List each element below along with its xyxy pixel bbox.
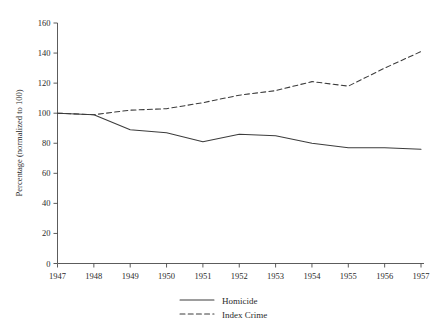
y-axis-ticks	[54, 23, 58, 264]
y-tick-label: 80	[42, 138, 51, 148]
x-tick-label: 1954	[303, 271, 321, 281]
y-tick-label: 140	[38, 48, 51, 58]
series-line-index-crime	[58, 52, 422, 115]
x-tick-label: 1948	[85, 271, 102, 281]
y-axis-tick-labels: 020406080100120140160	[38, 18, 51, 269]
x-tick-label: 1949	[122, 271, 139, 281]
x-tick-label: 1953	[267, 271, 284, 281]
x-tick-label: 1956	[376, 271, 393, 281]
y-axis-title: Percentage (normalized to 100)	[14, 89, 24, 196]
y-tick-label: 100	[38, 108, 51, 118]
y-tick-label: 160	[38, 18, 51, 28]
y-tick-label: 60	[42, 168, 51, 178]
series-line-homicide	[58, 113, 422, 149]
x-tick-label: 1947	[49, 271, 66, 281]
y-tick-label: 120	[38, 78, 51, 88]
legend-label-homicide: Homicide	[222, 296, 258, 306]
y-tick-label: 0	[46, 259, 50, 269]
chart-figure: 020406080100120140160 Percentage (normal…	[0, 0, 435, 327]
line-chart: 020406080100120140160 Percentage (normal…	[0, 0, 435, 327]
y-tick-label: 40	[42, 198, 51, 208]
x-axis-tick-labels: 1947194819491950195119521953195419551956…	[49, 271, 430, 281]
x-tick-label: 1950	[158, 271, 175, 281]
x-tick-label: 1957	[413, 271, 430, 281]
chart-legend: HomicideIndex Crime	[180, 296, 267, 320]
legend-label-index-crime: Index Crime	[222, 310, 267, 320]
x-tick-label: 1952	[231, 271, 248, 281]
y-tick-label: 20	[42, 228, 51, 238]
data-series-group	[58, 52, 422, 150]
x-axis-ticks	[58, 264, 422, 268]
x-tick-label: 1951	[194, 271, 211, 281]
y-axis: 020406080100120140160 Percentage (normal…	[14, 18, 58, 269]
x-tick-label: 1955	[340, 271, 357, 281]
x-axis: 1947194819491950195119521953195419551956…	[49, 264, 430, 281]
